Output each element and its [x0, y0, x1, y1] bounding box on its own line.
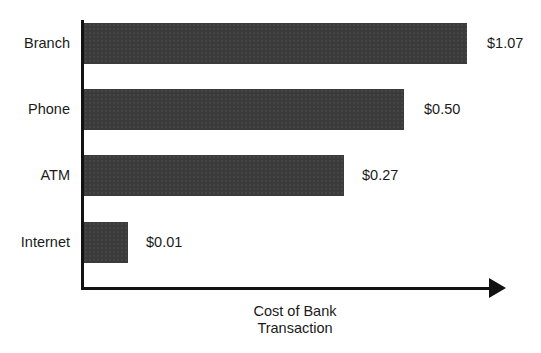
- bar-internet: [84, 222, 128, 263]
- x-axis-title-line-2: Transaction: [205, 320, 385, 337]
- x-axis-title-line-1: Cost of Bank: [205, 303, 385, 320]
- x-axis-line: [81, 287, 497, 290]
- bank-transaction-cost-chart: Branch $1.07 Phone $0.50 ATM $0.27 Inter…: [0, 0, 541, 353]
- x-axis-title: Cost of Bank Transaction: [205, 303, 385, 337]
- category-label-branch: Branch: [0, 35, 70, 51]
- value-label-atm: $0.27: [362, 167, 398, 183]
- category-label-phone: Phone: [0, 101, 70, 117]
- bar-phone: [84, 89, 404, 130]
- bar-branch: [84, 23, 467, 64]
- x-axis-arrow-icon: [489, 278, 506, 298]
- category-label-internet: Internet: [0, 234, 70, 250]
- value-label-phone: $0.50: [424, 101, 460, 117]
- bar-atm: [84, 155, 344, 196]
- value-label-branch: $1.07: [487, 35, 523, 51]
- value-label-internet: $0.01: [146, 234, 182, 250]
- category-label-atm: ATM: [0, 167, 70, 183]
